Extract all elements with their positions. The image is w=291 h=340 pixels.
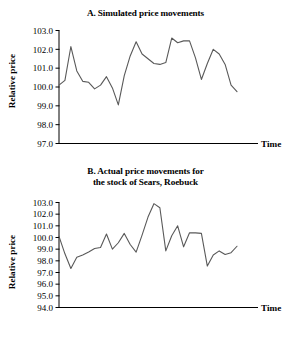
y-axis-tick-label: 100.0 <box>33 82 54 92</box>
figure-container: A. Simulated price movements Relative pr… <box>0 0 291 340</box>
panel-a-plot: 103.0102.0101.0100.099.098.097.0Time <box>0 0 291 162</box>
y-axis-tick-label: 96.0 <box>37 279 53 289</box>
y-axis-tick-label: 98.0 <box>37 120 53 130</box>
price-series-line <box>59 204 237 269</box>
y-axis-tick-label: 101.0 <box>33 221 54 231</box>
y-axis-tick-label: 102.0 <box>33 45 54 55</box>
y-axis-tick-label: 99.0 <box>37 244 53 254</box>
x-axis-label-time: Time <box>261 139 281 149</box>
y-axis-tick-label: 94.0 <box>37 303 53 313</box>
y-axis-tick-label: 101.0 <box>33 63 54 73</box>
y-axis-tick-label: 100.0 <box>33 233 54 243</box>
price-series-line <box>59 38 237 105</box>
y-axis-tick-label: 95.0 <box>37 291 53 301</box>
panel-b-plot: 103.0102.0101.0100.099.098.097.096.095.0… <box>0 162 291 340</box>
y-axis-tick-label: 102.0 <box>33 209 54 219</box>
chart-panel-b: B. Actual price movements for the stock … <box>0 162 291 340</box>
y-axis-tick-label: 97.0 <box>37 268 53 278</box>
y-axis-tick-label: 97.0 <box>37 139 53 149</box>
x-axis-label-time: Time <box>261 303 281 313</box>
y-axis-tick-label: 103.0 <box>33 198 54 208</box>
chart-panel-a: A. Simulated price movements Relative pr… <box>0 0 291 162</box>
y-axis-tick-label: 99.0 <box>37 101 53 111</box>
y-axis-tick-label: 98.0 <box>37 256 53 266</box>
y-axis-tick-label: 103.0 <box>33 26 54 36</box>
